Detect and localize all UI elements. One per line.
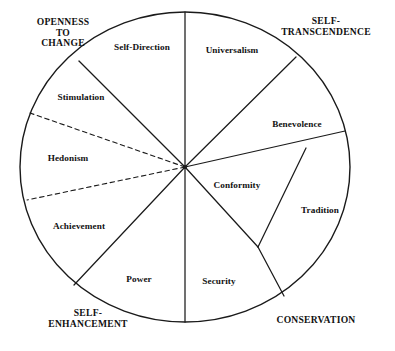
center-hub: [183, 165, 187, 169]
value-label-conformity: Conformity: [214, 180, 261, 190]
dimension-label-openness-to-change: OPENNESS TO CHANGE: [37, 17, 90, 49]
dimension-label-self-transcendence: SELF- TRANSCENDENCE: [281, 16, 371, 37]
values-circumplex-diagram: [0, 0, 395, 351]
dimension-label-self-enhancement: SELF- ENHANCEMENT: [48, 308, 128, 329]
value-label-hedonism: Hedonism: [48, 153, 89, 163]
dimension-label-conservation: CONSERVATION: [276, 315, 355, 326]
value-label-universalism: Universalism: [206, 45, 259, 55]
value-label-self-direction: Self-Direction: [114, 42, 170, 52]
value-label-power: Power: [126, 274, 152, 284]
value-label-stimulation: Stimulation: [57, 92, 104, 102]
value-label-tradition: Tradition: [301, 205, 339, 215]
value-label-security: Security: [202, 276, 235, 286]
value-label-benevolence: Benevolence: [272, 119, 322, 129]
figure-canvas: Self-DirectionUniversalismBenevolenceCon…: [0, 0, 395, 351]
value-label-achievement: Achievement: [53, 221, 105, 231]
